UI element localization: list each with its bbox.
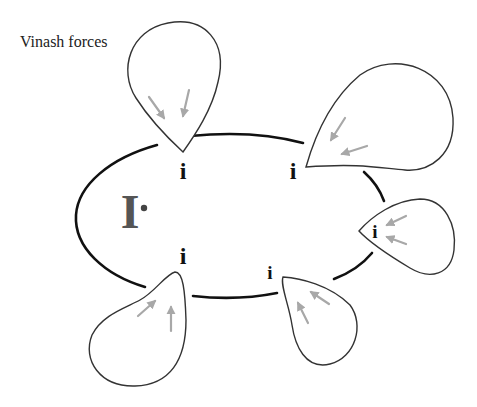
diagram-title: Vinash forces	[20, 33, 107, 50]
node-label-top-left: i	[180, 158, 187, 184]
force-lobe-bottom-left	[89, 272, 186, 386]
vinash-forces-diagram: Vinash forces i i i i i	[0, 0, 477, 407]
node-label-bottom-right: i	[267, 262, 272, 283]
force-lobe-bottom-right	[282, 277, 357, 365]
ring-arc-left	[76, 145, 157, 287]
ring-arc-bottom	[193, 293, 277, 298]
force-lobe-top-left	[128, 22, 221, 152]
node-label-top-right: i	[290, 158, 297, 184]
center-label: I	[121, 185, 140, 238]
ring-arc-right-lower	[334, 253, 372, 279]
ring-arc-top	[190, 134, 303, 143]
ring-arc-right-upper	[364, 172, 384, 201]
node-label-bottom-left: i	[180, 243, 187, 269]
center-dot	[141, 205, 147, 211]
force-lobe-top-right	[306, 64, 453, 170]
node-label-right: i	[372, 221, 377, 242]
